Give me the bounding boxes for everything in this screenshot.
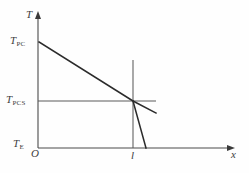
y-axis-arrow-icon (35, 11, 41, 19)
y-tick-label-t-pcs: TPCS (6, 94, 25, 105)
t-e-subscript: E (19, 143, 23, 151)
temperature-profile-figure: T TPC TPCS TE O l x (0, 0, 249, 173)
y-tick-label-t-pc: TPC (10, 35, 25, 46)
origin-label: O (31, 148, 39, 159)
x-tick-label-l: l (131, 150, 134, 161)
y-tick-label-t-e: TE (13, 138, 24, 149)
t-pc-subscript: PC (16, 40, 25, 48)
t-pcs-subscript: PCS (12, 99, 25, 107)
y-axis-label: T (26, 9, 32, 20)
steep-temperature-curve (133, 101, 146, 148)
x-axis-label: x (231, 149, 236, 160)
shallow-temperature-curve (39, 42, 156, 113)
